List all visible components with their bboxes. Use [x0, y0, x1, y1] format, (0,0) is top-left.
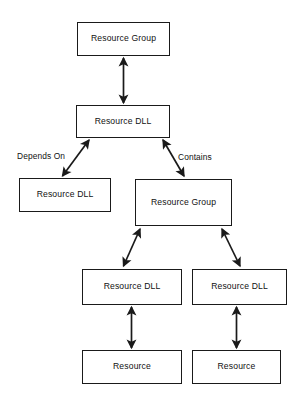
node-label: Resource DLL [104, 282, 161, 291]
node-resource-dll-left[interactable]: Resource DLL [82, 269, 182, 305]
node-label: Resource [218, 362, 256, 371]
node-label: Resource Group [151, 198, 216, 207]
resource-dependency-diagram: Resource Group Resource DLL Resource DLL… [0, 0, 297, 403]
node-label: Resource [113, 362, 151, 371]
node-resource-left[interactable]: Resource [82, 350, 182, 384]
node-label: Resource DLL [37, 190, 94, 199]
node-label: Resource DLL [211, 282, 268, 291]
node-label: Resource Group [91, 34, 156, 43]
node-resource-dll-root[interactable]: Resource DLL [76, 105, 170, 138]
edge-child-group-to-right-dll [222, 229, 240, 266]
node-resource-dll-right[interactable]: Resource DLL [192, 269, 287, 305]
node-resource-right[interactable]: Resource [192, 350, 281, 384]
edge-child-group-to-left-dll [124, 229, 141, 266]
node-label: Resource DLL [95, 117, 152, 126]
edge-label-contains: Contains [178, 152, 212, 162]
node-resource-group-child[interactable]: Resource Group [135, 179, 232, 226]
edge-label-depends-on: Depends On [17, 151, 65, 161]
node-resource-group-root[interactable]: Resource Group [77, 22, 170, 56]
edge-root-dll-to-dep-dll [63, 140, 90, 176]
node-resource-dll-dependency[interactable]: Resource DLL [19, 178, 111, 212]
